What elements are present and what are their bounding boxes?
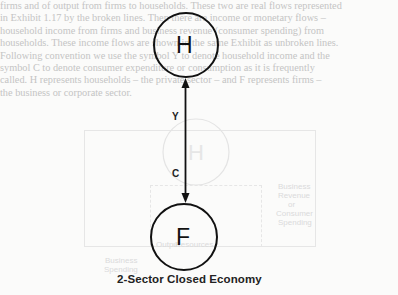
- svg-text:H: H: [188, 140, 204, 165]
- diagram-caption: 2-Sector Closed Economy: [117, 273, 262, 285]
- households-label: H: [176, 32, 193, 59]
- consumption-flow-label: C: [172, 168, 179, 179]
- firms-label: F: [176, 224, 190, 251]
- arrowhead-down-icon: [182, 193, 190, 203]
- income-flow-label: Y: [172, 111, 179, 122]
- arrowhead-up-icon: [182, 78, 190, 88]
- circular-flow-diagram: H: [0, 0, 398, 295]
